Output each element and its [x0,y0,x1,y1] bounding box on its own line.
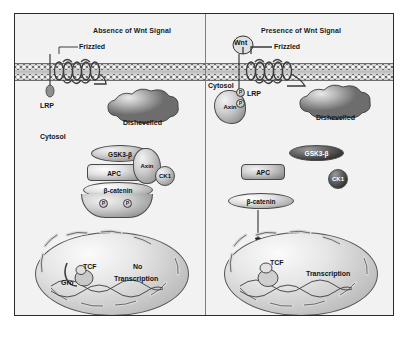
groucho-label-left: Gro [61,279,73,286]
wnt-pathway-figure: Absence of Wnt Signal [14,13,394,316]
no-transcription-line1-left: No [133,263,142,270]
nuclear-envelope-pores-left [15,14,205,316]
panel-absence-of-wnt: Absence of Wnt Signal [15,14,205,315]
nuclear-envelope-pores-right [206,14,394,316]
no-transcription-line2-left: Transcription [114,275,158,282]
tcf-label-left: TCF [83,263,97,270]
transcription-label-right: Transcription [306,270,350,277]
tcf-label-right: TCF [270,259,284,266]
panel-presence-of-wnt: Presence of Wnt Signal [206,14,394,315]
